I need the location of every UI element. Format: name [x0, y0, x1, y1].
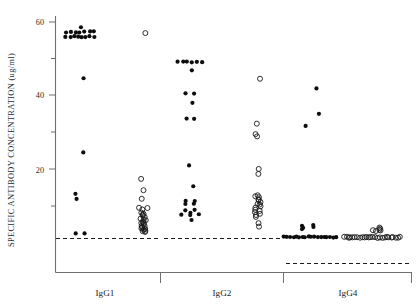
- data-point: [81, 76, 85, 80]
- data-point: [92, 35, 96, 39]
- data-point: [139, 176, 144, 181]
- data-point: [193, 208, 197, 212]
- data-point: [258, 76, 263, 81]
- data-point: [82, 231, 86, 235]
- x-group-label-igg1: IgG1: [96, 288, 115, 298]
- data-point: [179, 213, 183, 217]
- data-point: [183, 91, 187, 95]
- data-point: [314, 86, 318, 90]
- data-point: [77, 30, 81, 34]
- y-tick-label-20: 20: [36, 166, 44, 175]
- data-point: [92, 29, 96, 33]
- data-point: [183, 208, 187, 212]
- data-point: [185, 117, 189, 121]
- x-group-label-igg2: IgG2: [213, 288, 232, 298]
- data-point: [143, 31, 148, 36]
- data-point: [189, 218, 193, 222]
- data-point: [288, 235, 292, 239]
- data-point: [139, 196, 144, 201]
- data-point: [64, 30, 68, 34]
- data-point: [195, 60, 199, 64]
- data-point: [192, 202, 196, 206]
- data-point: [83, 35, 87, 39]
- data-point: [188, 213, 192, 217]
- data-point: [190, 68, 194, 72]
- data-point: [145, 206, 150, 211]
- data-point: [185, 60, 189, 64]
- data-point: [192, 91, 196, 95]
- data-point: [200, 60, 204, 64]
- data-point: [72, 34, 76, 38]
- data-point: [256, 171, 261, 176]
- plot-canvas: SPECIFIC ANTIBODY CONCENTRATION (ug/ml) …: [0, 0, 418, 308]
- data-point: [300, 227, 304, 231]
- data-points-filled: [63, 25, 338, 240]
- data-point: [324, 235, 328, 239]
- data-point: [192, 117, 196, 121]
- data-point: [74, 231, 78, 235]
- data-point: [303, 235, 307, 239]
- data-point: [74, 197, 78, 201]
- data-point: [79, 35, 83, 39]
- data-point: [190, 101, 194, 105]
- data-point: [317, 112, 321, 116]
- data-point: [312, 235, 316, 239]
- y-tick-label-40: 40: [36, 91, 44, 100]
- data-point: [82, 29, 86, 33]
- data-point: [190, 60, 194, 64]
- data-point: [81, 150, 85, 154]
- data-point: [69, 30, 73, 34]
- scatter-plot-figure: SPECIFIC ANTIBODY CONCENTRATION (ug/ml) …: [0, 0, 418, 308]
- data-point: [304, 124, 308, 128]
- data-point: [63, 35, 67, 39]
- data-point: [79, 25, 83, 29]
- x-group-label-igg4: IgG4: [339, 288, 358, 298]
- data-point: [69, 35, 73, 39]
- data-point: [257, 224, 262, 229]
- data-point: [187, 163, 191, 167]
- data-point: [334, 235, 338, 239]
- data-point: [88, 29, 92, 33]
- data-point: [191, 184, 195, 188]
- y-tick-label-60: 60: [36, 18, 44, 27]
- data-point: [87, 34, 91, 38]
- data-point: [254, 121, 259, 126]
- data-point: [183, 202, 187, 206]
- data-point: [297, 235, 301, 239]
- data-point: [311, 223, 315, 227]
- data-point: [73, 192, 77, 196]
- data-point: [197, 212, 201, 216]
- data-point: [175, 60, 179, 64]
- data-point: [141, 188, 146, 193]
- data-point: [256, 166, 261, 171]
- y-axis-title: SPECIFIC ANTIBODY CONCENTRATION (ug/ml): [7, 53, 16, 247]
